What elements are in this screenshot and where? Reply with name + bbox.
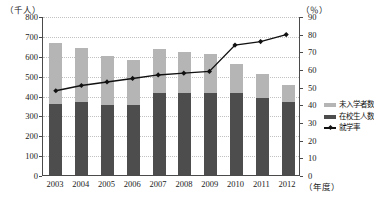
right-axis-tick-mark bbox=[300, 35, 303, 36]
legend-item[interactable]: 未入学者数 bbox=[324, 100, 369, 110]
left-axis-tick-label: 0 bbox=[12, 171, 38, 181]
chart-legend: 未入学者数在校生人数就学率 bbox=[324, 100, 369, 135]
right-axis-tick-mark bbox=[300, 176, 303, 177]
right-axis-tick-label: 80 bbox=[308, 30, 334, 40]
right-axis-tick-mark bbox=[300, 52, 303, 53]
left-axis-tick-label: 300 bbox=[12, 111, 38, 121]
line-marker bbox=[258, 39, 263, 44]
line-marker bbox=[156, 72, 161, 77]
right-axis-tick-label: 90 bbox=[308, 12, 334, 22]
right-axis-tick-mark bbox=[300, 158, 303, 159]
right-axis-tick-label: 60 bbox=[308, 65, 334, 75]
legend-line-icon bbox=[324, 123, 336, 133]
left-axis-tick-label: 800 bbox=[12, 12, 38, 22]
right-axis-tick-mark bbox=[300, 70, 303, 71]
line-marker bbox=[53, 88, 58, 93]
legend-item-label: 就学率 bbox=[339, 123, 360, 133]
left-axis-tick-label: 700 bbox=[12, 32, 38, 42]
legend-swatch-icon bbox=[324, 115, 336, 119]
x-axis-tick-label: 2012 bbox=[272, 179, 302, 189]
legend-swatch-icon bbox=[324, 103, 336, 107]
line-marker bbox=[104, 79, 109, 84]
x-axis-labels: 2003200420052006200720082009201020112012 bbox=[42, 179, 300, 193]
right-axis-tick-mark bbox=[300, 105, 303, 106]
right-axis-tick-mark bbox=[300, 17, 303, 18]
right-axis-tick-label: 70 bbox=[308, 47, 334, 57]
right-axis-tick-mark bbox=[300, 123, 303, 124]
right-axis-tick-mark bbox=[300, 141, 303, 142]
right-axis-tick-mark bbox=[300, 88, 303, 89]
line-path-enrollment-rate bbox=[56, 35, 286, 91]
left-axis-tick-label: 100 bbox=[12, 151, 38, 161]
legend-item-label: 未入学者数 bbox=[339, 100, 374, 110]
line-marker bbox=[79, 83, 84, 88]
right-axis-tick-label: 10 bbox=[308, 153, 334, 163]
left-axis-tick-label: 600 bbox=[12, 52, 38, 62]
right-axis-tick-label: 50 bbox=[308, 83, 334, 93]
legend-item[interactable]: 就学率 bbox=[324, 123, 369, 133]
left-axis-tick-label: 200 bbox=[12, 131, 38, 141]
line-marker bbox=[284, 32, 289, 37]
line-series-svg bbox=[43, 17, 299, 175]
plot-area bbox=[42, 17, 300, 176]
line-marker bbox=[130, 76, 135, 81]
left-axis-ticks: 8007006005004003002001000 bbox=[10, 17, 38, 176]
legend-item[interactable]: 在校生人数 bbox=[324, 112, 369, 122]
left-axis-tick-label: 500 bbox=[12, 72, 38, 82]
legend-item-label: 在校生人数 bbox=[339, 112, 374, 122]
left-axis-tick-label: 400 bbox=[12, 92, 38, 102]
line-marker bbox=[181, 71, 186, 76]
x-axis-unit-label: （年度） bbox=[304, 180, 340, 192]
right-axis-tick-label: 20 bbox=[308, 136, 334, 146]
left-axis-tick-mark bbox=[39, 176, 42, 177]
right-axis-ticks: 9080706050403020100 bbox=[303, 17, 331, 176]
